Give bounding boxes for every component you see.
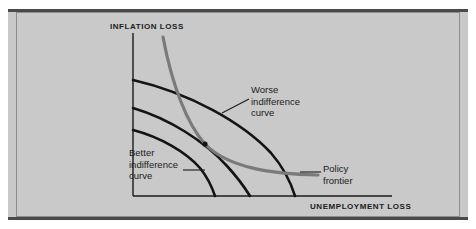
annotation-better-line1: Better [129,147,178,159]
chart-canvas [0,0,476,229]
annotation-policy-frontier: Policy frontier [323,163,353,186]
annotation-better-indifference-curve: Better indifference curve [129,147,178,182]
annotation-better-line2: indifference [129,159,178,171]
leader-line-worse [222,99,249,113]
annotation-policy-line2: frontier [323,175,353,187]
x-axis-label: UNEMPLOYMENT LOSS [310,202,411,211]
annotation-policy-line1: Policy [323,163,353,175]
annotation-worse-indifference-curve: Worse indifference curve [251,84,300,119]
annotation-better-line3: curve [129,170,178,182]
y-axis-label: INFLATION LOSS [110,22,184,31]
figure-container: INFLATION LOSS UNEMPLOYMENT LOSS Worse i… [0,0,476,229]
optimum-tangency-point [202,141,207,146]
annotation-worse-line3: curve [251,107,300,119]
annotation-worse-line2: indifference [251,96,300,108]
annotation-worse-line1: Worse [251,84,300,96]
